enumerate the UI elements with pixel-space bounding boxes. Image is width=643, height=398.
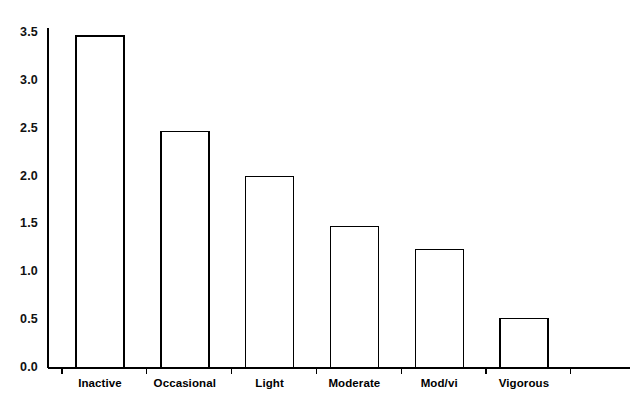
bar-vigorous[interactable] — [500, 318, 548, 368]
bar-chart: 0.00.51.01.52.02.53.03.5 InactiveOccasio… — [0, 0, 643, 398]
y-tick-label-1.0: 1.0 — [6, 265, 38, 278]
y-tick-label-0.5: 0.5 — [6, 313, 38, 326]
x-tick-label-vigorous: Vigorous — [472, 376, 577, 390]
y-tick-label-2.5: 2.5 — [6, 122, 38, 135]
y-tick-label-0.0: 0.0 — [6, 361, 38, 374]
bar-light[interactable] — [246, 177, 294, 368]
y-tick-label-3.0: 3.0 — [6, 74, 38, 87]
chart-plot-area — [0, 0, 643, 398]
bar-mod-vi[interactable] — [415, 249, 463, 368]
bar-occasional[interactable] — [161, 132, 209, 368]
chart-bars — [76, 36, 548, 368]
y-tick-label-3.5: 3.5 — [6, 26, 38, 39]
bar-inactive[interactable] — [76, 36, 124, 368]
bar-moderate[interactable] — [330, 226, 378, 368]
y-tick-label-2.0: 2.0 — [6, 170, 38, 183]
y-tick-label-1.5: 1.5 — [6, 217, 38, 230]
